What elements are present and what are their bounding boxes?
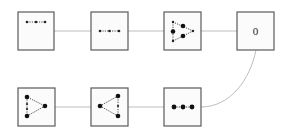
edges <box>54 31 256 107</box>
node-6 <box>91 88 128 126</box>
node-3 <box>164 12 201 50</box>
node-6-box <box>91 88 128 126</box>
node-2 <box>91 12 128 50</box>
node-4: 0 <box>237 12 274 50</box>
node-5 <box>164 88 201 126</box>
node-1-box <box>18 12 54 50</box>
node-4-label: 0 <box>253 25 259 37</box>
node-3-box <box>164 12 201 50</box>
three-dots-icon <box>172 105 195 110</box>
flow-diagram: 0 <box>0 0 288 134</box>
node-7-box <box>18 88 55 126</box>
edge-n4-n5-curve <box>201 50 256 107</box>
node-7 <box>18 88 55 126</box>
node-1 <box>18 12 54 50</box>
